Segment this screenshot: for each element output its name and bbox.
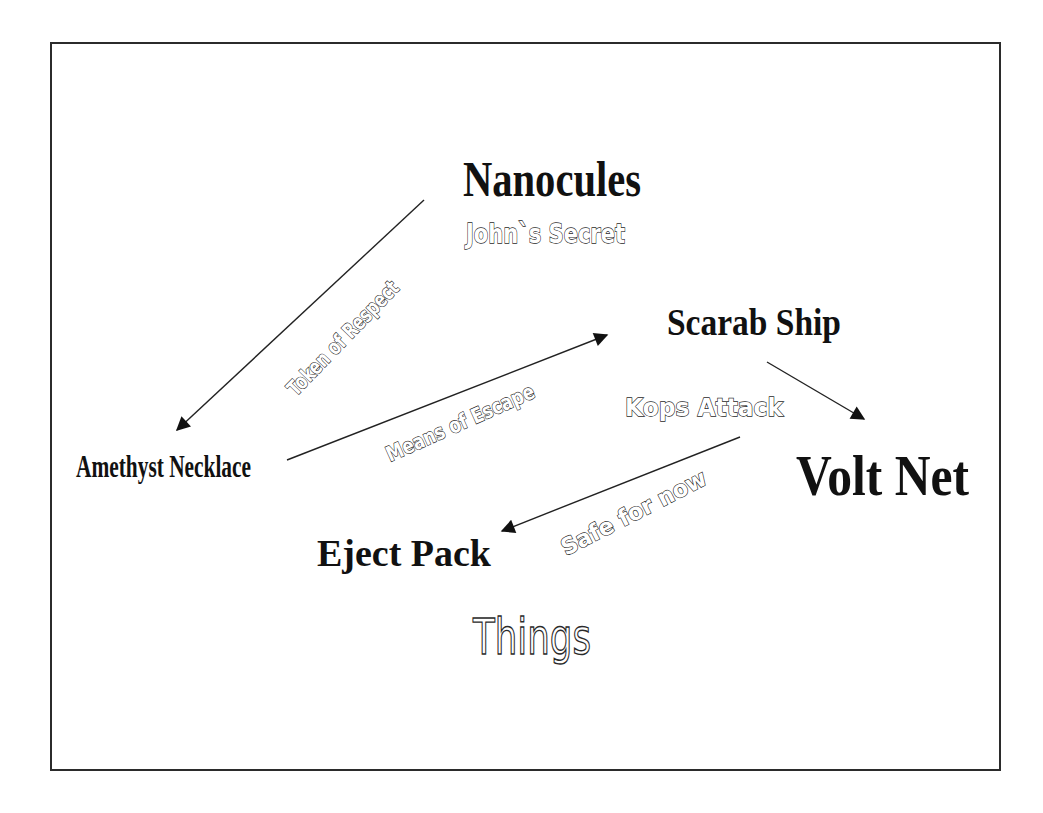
node-nanocules: Nanocules <box>463 151 641 207</box>
edge-label-kops-attack: Kops Attack <box>625 394 784 422</box>
node-nanocules-subtitle: John`s Secret <box>464 219 625 249</box>
node-scarab-ship: Scarab Ship <box>667 301 841 343</box>
diagram-canvas: Nanocules John`s Secret Amethyst Necklac… <box>0 0 1043 813</box>
node-volt-net: Volt Net <box>796 445 969 507</box>
node-eject-pack: Eject Pack <box>317 532 492 574</box>
diagram-title: Things <box>472 608 591 666</box>
node-amethyst-necklace: Amethyst Necklace <box>76 448 251 484</box>
